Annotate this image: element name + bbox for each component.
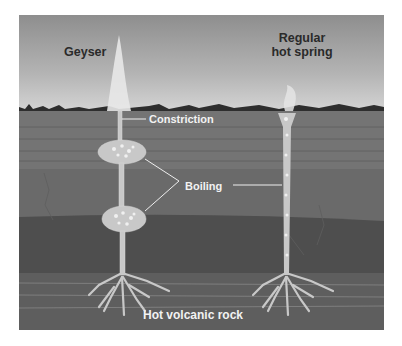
treeline	[19, 104, 384, 111]
geyser-plume	[107, 35, 131, 111]
label-hot-volcanic-rock: Hot volcanic rock	[143, 308, 243, 322]
layer-mid	[19, 169, 384, 217]
label-boiling: Boiling	[185, 179, 222, 193]
label-hot-spring: Regular hot spring	[262, 31, 342, 59]
geyser-cross-section	[19, 15, 384, 330]
label-geyser: Geyser	[64, 45, 106, 59]
label-hot-spring-line2: hot spring	[262, 45, 342, 59]
label-constriction: Constriction	[149, 112, 214, 126]
diagram-frame: Geyser Regular hot spring Constriction B…	[19, 15, 384, 330]
hot-spring-steam	[284, 85, 296, 111]
label-hot-spring-line1: Regular	[262, 31, 342, 45]
layer-dark	[19, 215, 384, 273]
